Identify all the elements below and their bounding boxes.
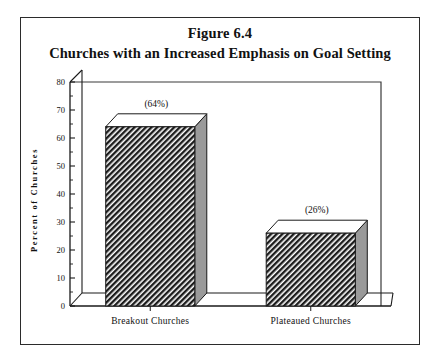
y-tick-label: 0 — [61, 301, 65, 311]
x-axis-ticks — [150, 306, 311, 311]
bar — [266, 220, 367, 306]
category-labels: Breakout ChurchesPlateaued Churches — [111, 316, 351, 326]
y-tick-label: 20 — [57, 245, 66, 255]
y-axis — [70, 70, 82, 306]
y-tick-label: 70 — [57, 105, 66, 115]
bar-chart-plot: 01020304050607080 (64%)(26%) Breakout Ch… — [0, 0, 444, 357]
y-tick-label: 40 — [57, 189, 66, 199]
bar-top-face — [266, 220, 367, 233]
y-tick-label: 60 — [57, 133, 66, 143]
y-tick-label: 50 — [57, 161, 66, 171]
bar-front-face — [266, 233, 355, 306]
bar-front-face — [106, 127, 195, 306]
category-label: Plateaued Churches — [270, 316, 351, 326]
y-axis-ticks: 01020304050607080 — [57, 77, 76, 311]
y-tick-label: 80 — [57, 77, 66, 87]
bar-side-face — [195, 114, 207, 306]
bar-side-face — [355, 220, 367, 306]
y-tick-label: 30 — [57, 217, 66, 227]
category-label: Breakout Churches — [111, 316, 189, 326]
bar-value-label: (26%) — [305, 205, 329, 216]
bar-top-face — [106, 114, 207, 127]
y-tick-label: 10 — [57, 273, 66, 283]
bar-value-label: (64%) — [144, 99, 168, 110]
figure-container: Figure 6.4 Churches with an Increased Em… — [0, 0, 444, 357]
bar — [106, 114, 207, 306]
